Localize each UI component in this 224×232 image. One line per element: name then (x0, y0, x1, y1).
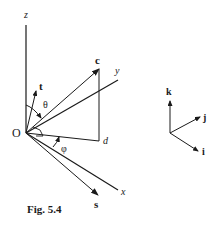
unit-k-label: k (166, 86, 172, 97)
vector-t (26, 91, 36, 133)
vector-s-label: s (94, 198, 99, 210)
x-axis-label: x (120, 186, 126, 197)
phi-label: φ (61, 143, 67, 154)
origin-label: O (12, 126, 21, 140)
vector-t-label: t (39, 80, 43, 92)
vector-c (26, 69, 99, 133)
unit-vector-triad: k j i (166, 86, 206, 157)
figure-canvas: z y x c t s d O θ φ k j i Fig. 5.4 (0, 0, 224, 232)
unit-i-label: i (202, 146, 205, 157)
figure-caption: Fig. 5.4 (27, 203, 62, 215)
z-axis-label: z (23, 9, 28, 20)
theta-arc (26, 105, 41, 118)
unit-vector-i (170, 133, 198, 151)
unit-j-label: j (202, 112, 206, 123)
y-axis-label: y (114, 65, 120, 76)
vector-c-label: c (95, 54, 100, 66)
phi-arc (53, 137, 59, 147)
point-d-label: d (103, 135, 109, 146)
theta-label: θ (43, 99, 48, 110)
unit-vector-j (170, 117, 200, 133)
